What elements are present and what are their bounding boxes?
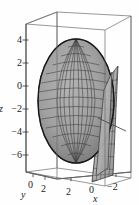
x-tick-label-neg2: −2	[107, 182, 118, 192]
z-tick-label-neg4: −4	[1, 127, 22, 137]
z-tick-label-4: 4	[6, 35, 22, 45]
z-tick-label-neg6: −6	[1, 150, 22, 160]
z-tick-label-2: 2	[6, 58, 22, 68]
plot-figure: 4 2 0 −2 −4 −6 z 0 2 y 2 0 −2 x	[0, 0, 139, 205]
y-axis-label: y	[21, 190, 25, 200]
y-tick-label-2: 2	[41, 184, 46, 194]
z-tick-label-0: 0	[6, 81, 22, 91]
z-tick-label-neg2: −2	[1, 104, 22, 114]
z-axis	[23, 24, 29, 172]
z-axis-label: z	[0, 104, 3, 114]
z-axis-ticks	[23, 40, 29, 155]
y-tick-label-0: 0	[28, 180, 33, 190]
x-tick-label-2: 2	[66, 187, 71, 197]
x-axis-label: x	[93, 194, 97, 204]
